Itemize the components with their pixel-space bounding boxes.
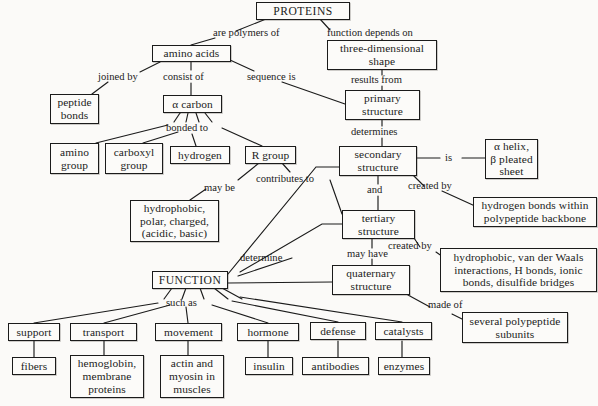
- node-movement[interactable]: movement: [155, 323, 222, 341]
- link-label-joined-by: joined by: [98, 71, 138, 82]
- node-quaternary-structure[interactable]: quaternary structure: [332, 265, 410, 295]
- node-actin-myosin[interactable]: actin and myosin in muscles: [160, 355, 224, 398]
- node-amino-group[interactable]: amino group: [50, 143, 99, 174]
- node-catalysts[interactable]: catalysts: [375, 322, 432, 340]
- node-enzymes[interactable]: enzymes: [378, 357, 430, 375]
- link-label-made-of: made of: [428, 299, 462, 310]
- node-polypeptide-subunits[interactable]: several polypeptide subunits: [462, 312, 568, 343]
- link-label-created-by-tertiary: created by: [388, 240, 432, 251]
- link-label-and: and: [367, 184, 382, 195]
- node-carboxyl-group[interactable]: carboxyl group: [105, 143, 163, 174]
- link-label-determines: determines: [351, 126, 397, 137]
- node-alpha-carbon[interactable]: α carbon: [163, 95, 222, 113]
- link-label-may-have: may have: [347, 248, 388, 259]
- node-hormone[interactable]: hormone: [237, 323, 299, 341]
- node-primary-structure[interactable]: primary structure: [345, 90, 420, 120]
- node-three-dimensional-shape[interactable]: three-dimensional shape: [327, 40, 437, 70]
- node-fibers[interactable]: fibers: [12, 357, 56, 375]
- node-hemoglobin-membrane-proteins[interactable]: hemoglobin, membrane proteins: [70, 355, 144, 398]
- node-amino-acids[interactable]: amino acids: [152, 45, 231, 62]
- node-hydrogen-bonds-backbone[interactable]: hydrogen bonds within polypeptide backbo…: [473, 197, 597, 227]
- link-label-sequence-is: sequence is: [247, 71, 296, 82]
- node-support[interactable]: support: [8, 323, 60, 341]
- link-label-determine: determine: [240, 252, 282, 263]
- link-label-function-depends-on: function depends on: [327, 27, 413, 38]
- node-alpha-helix-beta-sheet[interactable]: α helix, β pleated sheet: [485, 139, 538, 179]
- node-hydrogen[interactable]: hydrogen: [170, 146, 230, 164]
- link-label-contributes-to: contributes to: [256, 173, 314, 184]
- link-label-are-polymers-of: are polymers of: [213, 27, 279, 38]
- node-peptide-bonds[interactable]: peptide bonds: [50, 94, 99, 124]
- link-label-created-by-secondary: created by: [408, 180, 452, 191]
- link-label-such-as: such as: [166, 297, 197, 308]
- node-r-group[interactable]: R group: [245, 146, 296, 164]
- node-insulin[interactable]: insulin: [245, 357, 293, 375]
- link-label-results-from: results from: [351, 74, 402, 85]
- node-r-group-properties[interactable]: hydrophobic, polar, charged, (acidic, ba…: [130, 200, 219, 242]
- link-label-bonded-to: bonded to: [166, 122, 208, 133]
- node-defense[interactable]: defense: [310, 322, 366, 340]
- node-antibodies[interactable]: antibodies: [302, 357, 369, 375]
- node-tertiary-structure[interactable]: tertiary structure: [342, 210, 415, 239]
- node-secondary-structure[interactable]: secondary structure: [339, 146, 417, 176]
- link-label-may-be: may be: [204, 182, 235, 193]
- node-tertiary-interactions[interactable]: hydrophobic, van der Waals interactions,…: [440, 248, 597, 292]
- node-function[interactable]: FUNCTION: [152, 271, 228, 289]
- link-label-consist-of: consist of: [163, 71, 204, 82]
- node-transport[interactable]: transport: [70, 323, 137, 341]
- concept-map-canvas: PROTEINS amino acids three-dimensional s…: [0, 0, 598, 406]
- node-proteins[interactable]: PROTEINS: [256, 2, 350, 20]
- link-label-is: is: [445, 152, 452, 163]
